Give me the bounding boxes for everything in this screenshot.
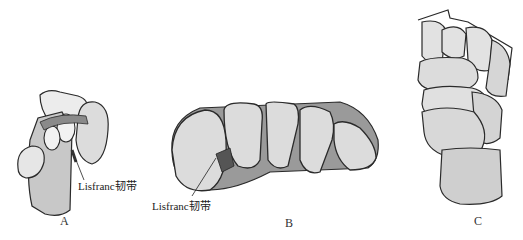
lisfranc-ligament-label-b: Lisfranc韧带 (152, 197, 211, 213)
lisfranc-ligament-label-a: Lisfranc韧带 (78, 177, 137, 193)
foot-bones-illustration-a (0, 0, 150, 240)
panel-a: Lisfranc韧带 A (0, 0, 150, 240)
panel-c: C (390, 0, 523, 240)
panel-b-label: B (285, 216, 293, 231)
panel-c-label: C (474, 214, 482, 229)
panel-b: Lisfranc韧带 B (150, 0, 390, 240)
panel-a-label: A (60, 214, 69, 229)
foot-bones-illustration-c (390, 0, 523, 240)
